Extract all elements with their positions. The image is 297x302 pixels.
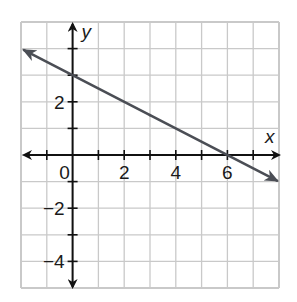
y-axis-label: y [80,21,93,42]
plotted-line [24,50,150,115]
y-tick-label: 2 [54,92,65,113]
x-tick-label: 6 [222,162,233,183]
y-tick-label: −2 [43,198,65,219]
x-tick-label: 4 [171,162,182,183]
coordinate-plane: 02462−2−4 x y [0,0,297,302]
x-tick-label: 0 [59,162,70,183]
x-tick-label: 2 [119,162,130,183]
x-axis-label: x [264,126,276,147]
axes [24,24,279,287]
y-tick-label: −4 [43,251,65,272]
plotted-line [150,115,277,181]
